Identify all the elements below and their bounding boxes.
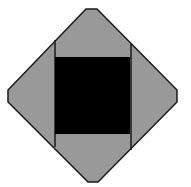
diamond-square-diagram — [0, 0, 191, 187]
black-center-square — [55, 57, 130, 134]
